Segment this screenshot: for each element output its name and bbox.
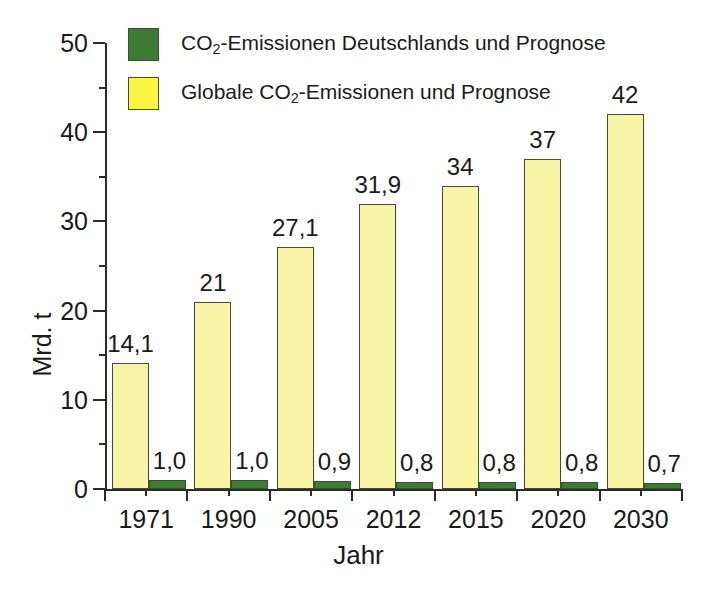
y-tick-label: 20 bbox=[60, 296, 88, 325]
bar-global-1990 bbox=[194, 302, 231, 489]
bar-value-label-germany-2012: 0,8 bbox=[400, 449, 433, 477]
x-tick-major bbox=[269, 489, 271, 501]
bar-value-label-global-2020: 37 bbox=[529, 126, 556, 154]
bar-value-label-global-2030: 42 bbox=[612, 81, 639, 109]
bar-global-2012 bbox=[359, 204, 396, 489]
legend-item-global: Globale CO2-Emissionen und Prognose bbox=[128, 75, 606, 111]
x-tick-minor bbox=[557, 489, 559, 496]
bar-value-label-global-2005: 27,1 bbox=[272, 214, 319, 242]
x-tick-major bbox=[434, 489, 436, 501]
bar-germany-2015 bbox=[479, 482, 516, 489]
bar-global-2020 bbox=[524, 159, 561, 489]
legend-swatch-germany bbox=[128, 28, 159, 61]
x-tick-label: 1971 bbox=[118, 505, 174, 534]
x-tick-major bbox=[104, 489, 106, 501]
bar-global-2030 bbox=[607, 114, 644, 489]
legend-label-germany: CO2-Emissionen Deutschlands und Prognose bbox=[181, 32, 606, 56]
x-tick-label: 1990 bbox=[201, 505, 257, 534]
legend-label-global: Globale CO2-Emissionen und Prognose bbox=[181, 81, 551, 105]
bar-value-label-germany-2030: 0,7 bbox=[647, 450, 680, 478]
x-tick-major bbox=[516, 489, 518, 501]
legend-swatch-global bbox=[128, 77, 159, 110]
x-tick-major bbox=[681, 489, 683, 501]
x-tick-minor bbox=[145, 489, 147, 496]
y-tick-label: 40 bbox=[60, 118, 88, 147]
bar-germany-2005 bbox=[314, 481, 351, 489]
y-tick-minor bbox=[99, 443, 106, 445]
bar-value-label-global-2012: 31,9 bbox=[354, 171, 401, 199]
legend-item-germany: CO2-Emissionen Deutschlands und Prognose bbox=[128, 26, 606, 62]
y-tick-label: 50 bbox=[60, 29, 88, 58]
y-tick-label: 30 bbox=[60, 207, 88, 236]
y-tick-major bbox=[93, 310, 105, 312]
x-tick-minor bbox=[640, 489, 642, 496]
bar-value-label-global-2015: 34 bbox=[447, 153, 474, 181]
x-tick-major bbox=[351, 489, 353, 501]
x-tick-major bbox=[186, 489, 188, 501]
y-tick-minor bbox=[99, 354, 106, 356]
x-axis-title: Jahr bbox=[0, 540, 717, 571]
bar-value-label-germany-2020: 0,8 bbox=[565, 449, 598, 477]
y-tick-major bbox=[93, 399, 105, 401]
bar-germany-2012 bbox=[396, 482, 433, 489]
x-tick-minor bbox=[310, 489, 312, 496]
bar-value-label-germany-1990: 1,0 bbox=[235, 447, 268, 475]
y-tick-label: 10 bbox=[60, 385, 88, 414]
x-tick-label: 2020 bbox=[531, 505, 587, 534]
bar-germany-2020 bbox=[561, 482, 598, 489]
bar-value-label-germany-1971: 1,0 bbox=[153, 447, 186, 475]
y-tick-minor bbox=[99, 176, 106, 178]
x-tick-label: 2015 bbox=[448, 505, 504, 534]
bar-germany-2030 bbox=[644, 483, 681, 489]
bar-germany-1971 bbox=[149, 480, 186, 489]
y-tick-major bbox=[93, 42, 105, 44]
bar-value-label-germany-2015: 0,8 bbox=[483, 449, 516, 477]
y-tick-label: 0 bbox=[74, 475, 88, 504]
x-tick-label: 2005 bbox=[283, 505, 339, 534]
bar-value-label-global-1990: 21 bbox=[200, 269, 227, 297]
x-tick-label: 2012 bbox=[366, 505, 422, 534]
y-axis-title: Mrd. t bbox=[28, 285, 57, 405]
bar-germany-1990 bbox=[231, 480, 268, 489]
bar-global-1971 bbox=[112, 363, 149, 489]
x-tick-label: 2030 bbox=[613, 505, 669, 534]
x-tick-minor bbox=[393, 489, 395, 496]
chart-legend: CO2-Emissionen Deutschlands und Prognose… bbox=[128, 26, 606, 124]
y-tick-major bbox=[93, 131, 105, 133]
x-tick-minor bbox=[475, 489, 477, 496]
y-tick-major bbox=[93, 220, 105, 222]
co2-emissions-bar-chart: 01020304050 1971199020052012201520202030… bbox=[0, 0, 717, 592]
bar-global-2015 bbox=[442, 186, 479, 489]
x-tick-minor bbox=[228, 489, 230, 496]
y-tick-minor bbox=[99, 87, 106, 89]
bar-global-2005 bbox=[277, 247, 314, 489]
bar-value-label-germany-2005: 0,9 bbox=[318, 448, 351, 476]
y-tick-minor bbox=[99, 265, 106, 267]
bar-value-label-global-1971: 14,1 bbox=[107, 330, 154, 358]
y-axis-line bbox=[105, 43, 107, 491]
x-tick-major bbox=[599, 489, 601, 501]
